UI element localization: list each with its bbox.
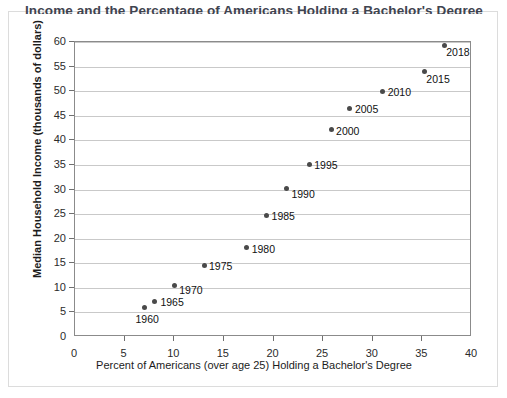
y-tick-label: 35 xyxy=(22,159,66,170)
gridline xyxy=(75,190,470,191)
x-tick-label: 30 xyxy=(352,348,392,359)
gridline xyxy=(75,140,470,141)
data-point-label: 2005 xyxy=(355,104,378,115)
x-tick-mark xyxy=(421,336,422,341)
x-tick-mark xyxy=(273,336,274,341)
y-tick-label: 10 xyxy=(22,282,66,293)
data-point-label: 2010 xyxy=(388,87,411,98)
y-tick-label: 50 xyxy=(22,85,66,96)
x-tick-label: 5 xyxy=(104,348,144,359)
x-tick-label: 0 xyxy=(54,348,94,359)
chart-title: Income and the Percentage of Americans H… xyxy=(9,3,499,14)
data-point xyxy=(142,305,147,310)
data-point xyxy=(172,283,177,288)
y-tick-label: 5 xyxy=(22,306,66,317)
x-tick-label: 40 xyxy=(451,348,491,359)
x-tick-mark xyxy=(372,336,373,341)
data-point-label: 1985 xyxy=(272,211,295,222)
y-tick-label: 45 xyxy=(22,110,66,121)
y-tick-label: 60 xyxy=(22,36,66,47)
y-tick-label: 20 xyxy=(22,233,66,244)
x-tick-label: 35 xyxy=(401,348,441,359)
data-point xyxy=(202,263,207,268)
data-point-label: 2000 xyxy=(336,126,359,137)
gridline xyxy=(75,165,470,166)
data-point xyxy=(284,186,289,191)
data-point-label: 2015 xyxy=(426,74,449,85)
data-point-label: 1980 xyxy=(252,244,275,255)
y-tick-label: 40 xyxy=(22,134,66,145)
gridline xyxy=(75,239,470,240)
gridline xyxy=(75,288,470,289)
y-tick-label: 0 xyxy=(22,331,66,342)
data-point xyxy=(380,89,385,94)
x-tick-label: 20 xyxy=(253,348,293,359)
figure-frame: Income and the Percentage of Americans H… xyxy=(8,11,498,387)
data-point xyxy=(307,162,312,167)
data-point-label: 1960 xyxy=(135,314,158,325)
y-tick-label: 30 xyxy=(22,184,66,195)
x-tick-mark xyxy=(124,336,125,341)
y-tick-label: 25 xyxy=(22,208,66,219)
data-point-label: 1990 xyxy=(291,189,314,200)
x-axis-title: Percent of Americans (over age 25) Holdi… xyxy=(9,359,499,371)
gridline xyxy=(75,312,470,313)
gridline xyxy=(75,42,470,43)
data-point xyxy=(152,299,157,304)
data-point-label: 1995 xyxy=(314,160,337,171)
data-point-label: 2018 xyxy=(446,47,469,58)
gridline xyxy=(75,67,470,68)
gridline xyxy=(75,116,470,117)
y-tick-label: 15 xyxy=(22,257,66,268)
plot-area: 1960196519701975198019851990199520002005… xyxy=(74,41,471,336)
x-tick-mark xyxy=(223,336,224,341)
data-point xyxy=(329,127,334,132)
data-point xyxy=(347,106,352,111)
x-tick-mark xyxy=(173,336,174,341)
x-tick-label: 25 xyxy=(302,348,342,359)
data-point-label: 1965 xyxy=(160,297,183,308)
data-point-label: 1970 xyxy=(179,285,202,296)
x-tick-mark xyxy=(322,336,323,341)
data-point-label: 1975 xyxy=(209,261,232,272)
data-point xyxy=(244,245,249,250)
data-point xyxy=(264,213,269,218)
y-tick-label: 55 xyxy=(22,61,66,72)
gridline xyxy=(75,263,470,264)
x-tick-label: 10 xyxy=(153,348,193,359)
x-tick-label: 15 xyxy=(203,348,243,359)
